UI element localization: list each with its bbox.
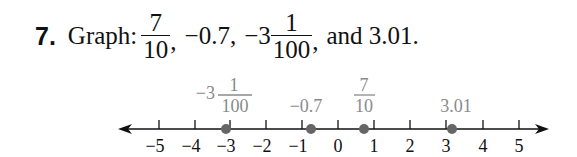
point-label: 3.01 xyxy=(440,96,472,116)
point-label-numerator: 7 xyxy=(360,75,369,95)
tick-label: −1 xyxy=(288,136,307,156)
tick-label: 2 xyxy=(406,136,415,156)
point-0-7 xyxy=(359,124,369,134)
tick-label: −2 xyxy=(252,136,271,156)
point-label-whole: −3 xyxy=(196,83,215,103)
point-label: −0.7 xyxy=(290,96,323,116)
tick-label: 4 xyxy=(479,136,488,156)
point-neg-3-01 xyxy=(221,124,231,134)
tick-label: −3 xyxy=(216,136,235,156)
tick-label: −4 xyxy=(181,136,200,156)
tick-label: −5 xyxy=(145,136,164,156)
tick-label: 3 xyxy=(442,136,451,156)
tick-labels: −5 −4 −3 −2 −1 0 1 2 3 4 5 xyxy=(145,136,523,156)
point-label-denominator: 100 xyxy=(222,96,249,116)
point-labels: −3 1 100 −0.7 7 10 3.01 xyxy=(196,75,472,116)
ticks xyxy=(159,120,519,129)
tick-label: 1 xyxy=(370,136,379,156)
point-3-01 xyxy=(447,124,457,134)
tick-label: 0 xyxy=(334,136,343,156)
number-line: −5 −4 −3 −2 −1 0 1 2 3 4 5 −3 1 100 −0.7… xyxy=(0,0,577,157)
point-neg-0-7 xyxy=(306,124,316,134)
point-label-denominator: 10 xyxy=(355,96,373,116)
point-label-numerator: 1 xyxy=(230,75,239,95)
tick-label: 5 xyxy=(515,136,524,156)
